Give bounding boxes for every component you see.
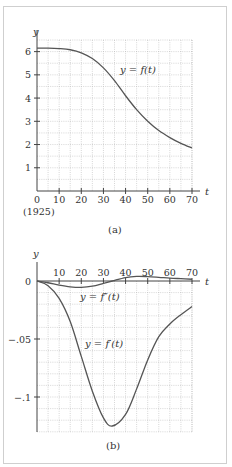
axes-a <box>34 30 200 194</box>
curve-label-f-double-prime: y = f″(t) <box>79 291 120 302</box>
x-tick-label: 30 <box>97 267 109 278</box>
y-tick-label: 6 <box>25 46 31 57</box>
tick-labels-b: 102030405060700−.05−.1 <box>8 267 198 403</box>
chart-panel-b: 102030405060700−.05−.1 y t y = f″(t) y =… <box>8 248 210 451</box>
x-tick-label: 40 <box>120 194 132 205</box>
origin-year-note: (1925) <box>23 206 55 217</box>
chart-panel-a: 010203040506070123456 y t (1925) y = f(t… <box>23 26 210 235</box>
x-axis-label-a: t <box>205 186 210 197</box>
tick-labels-a: 010203040506070123456 <box>25 46 198 205</box>
figure-svg: 010203040506070123456 y t (1925) y = f(t… <box>0 0 232 467</box>
x-tick-label: 30 <box>97 194 109 205</box>
x-tick-label: 60 <box>164 267 176 278</box>
y-tick-label: 3 <box>25 116 31 127</box>
y-tick-label: 1 <box>25 162 31 173</box>
y-tick-label: 5 <box>25 69 31 80</box>
y-axis-label-a: y <box>32 26 39 37</box>
grid-b <box>37 281 192 432</box>
x-tick-label: 50 <box>142 194 154 205</box>
x-tick-label: 20 <box>75 194 87 205</box>
x-tick-label: 60 <box>164 194 176 205</box>
x-tick-label: 70 <box>186 194 198 205</box>
y-tick-label: 0 <box>25 276 31 287</box>
curve-label-f-prime: y = f′(t) <box>84 338 123 349</box>
x-axis-label-b: t <box>205 276 210 287</box>
caption-a: (a) <box>108 224 122 235</box>
y-axis-label-b: y <box>32 248 39 259</box>
y-tick-label: 4 <box>25 93 31 104</box>
x-tick-label: 10 <box>53 194 65 205</box>
y-tick-label: −.1 <box>14 392 31 403</box>
y-tick-label: 2 <box>25 139 31 150</box>
x-tick-label: 10 <box>53 267 65 278</box>
x-tick-label: 0 <box>34 194 40 205</box>
y-tick-label: −.05 <box>8 334 31 345</box>
curve-label-f: y = f(t) <box>119 64 156 75</box>
x-tick-label: 20 <box>75 267 87 278</box>
x-tick-label: 70 <box>186 267 198 278</box>
grid-a <box>37 40 192 191</box>
caption-b: (b) <box>106 440 120 451</box>
